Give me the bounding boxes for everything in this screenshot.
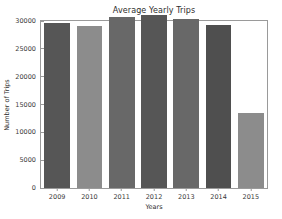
bar-2009: [44, 23, 70, 188]
x-tick-mark: [121, 188, 122, 191]
y-tick-mark: [41, 188, 44, 189]
x-tick-mark: [186, 188, 187, 191]
y-tick-5000: 5000: [19, 156, 41, 164]
x-tick-2013: 2013: [178, 188, 195, 201]
y-tick-10000: 10000: [15, 128, 41, 136]
y-tick-label: 15000: [15, 101, 41, 109]
bars-layer: [41, 21, 267, 188]
x-tick-mark: [89, 188, 90, 191]
y-tick-0: 0: [32, 184, 41, 192]
y-tick-mark: [41, 160, 44, 161]
y-tick-mark: [41, 132, 44, 133]
y-tick-30000: 30000: [15, 17, 41, 25]
bar-2013: [173, 19, 199, 188]
x-tick-2012: 2012: [146, 188, 163, 201]
y-tick-mark: [41, 21, 44, 22]
bar-2014: [206, 25, 232, 188]
y-tick-label: 30000: [15, 17, 41, 25]
x-tick-mark: [57, 188, 58, 191]
bar-2011: [109, 17, 135, 188]
y-tick-20000: 20000: [15, 73, 41, 81]
x-tick-mark: [218, 188, 219, 191]
y-tick-label: 10000: [15, 128, 41, 136]
y-tick-mark: [41, 48, 44, 49]
bar-2010: [77, 26, 103, 188]
chart-figure: Average Yearly Trips Number of Trips 050…: [0, 0, 282, 219]
x-axis-label: Years: [40, 203, 268, 211]
x-tick-2009: 2009: [49, 188, 66, 201]
y-tick-label: 20000: [15, 73, 41, 81]
y-tick-25000: 25000: [15, 45, 41, 53]
x-tick-mark: [250, 188, 251, 191]
y-tick-label: 5000: [19, 156, 41, 164]
bar-2012: [141, 15, 167, 188]
x-tick-2014: 2014: [210, 188, 227, 201]
chart-title: Average Yearly Trips: [40, 6, 268, 15]
y-axis-label-text: Number of Trips: [3, 79, 11, 131]
x-tick-2010: 2010: [81, 188, 98, 201]
x-tick-2015: 2015: [243, 188, 260, 201]
y-tick-label: 0: [32, 184, 41, 192]
x-tick-2011: 2011: [113, 188, 130, 201]
y-tick-mark: [41, 76, 44, 77]
y-tick-mark: [41, 104, 44, 105]
y-tick-15000: 15000: [15, 101, 41, 109]
bar-2015: [238, 113, 264, 188]
plot-area: 0500010000150002000025000300002009201020…: [40, 20, 268, 189]
y-axis-label: Number of Trips: [2, 20, 12, 189]
y-tick-label: 25000: [15, 45, 41, 53]
x-tick-mark: [153, 188, 154, 191]
